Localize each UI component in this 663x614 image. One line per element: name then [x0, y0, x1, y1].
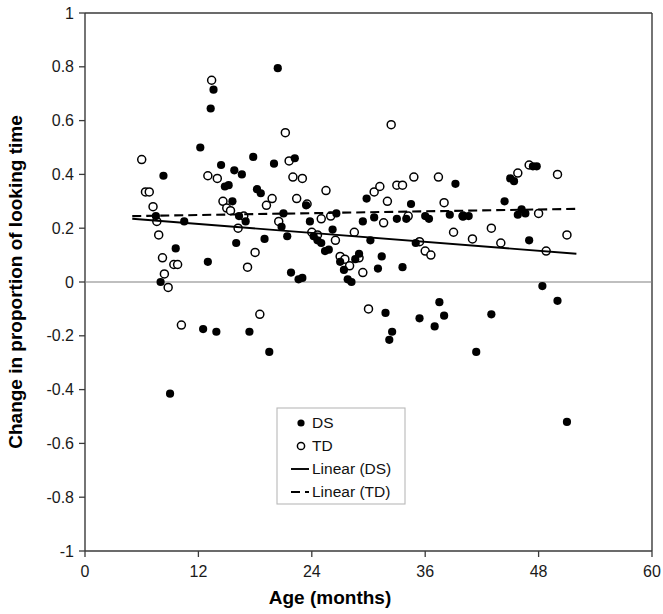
data-point-ds [533, 162, 541, 170]
y-tick-label: -1 [60, 543, 74, 560]
legend-label: DS [312, 414, 334, 431]
data-point-ds [525, 236, 533, 244]
data-point-ds [306, 217, 314, 225]
data-point-td [387, 121, 395, 129]
data-point-ds [232, 239, 240, 247]
data-point-ds [230, 166, 238, 174]
y-axis-ticks: -1-0.8-0.6-0.4-0.200.20.40.60.81 [46, 5, 85, 560]
legend-label: Linear (TD) [312, 483, 390, 500]
data-point-td [410, 173, 418, 181]
data-point-td [554, 170, 562, 178]
data-point-ds [225, 181, 233, 189]
x-axis-ticks: 01224364860 [81, 551, 661, 580]
data-point-td [487, 224, 495, 232]
data-point-td [383, 197, 391, 205]
data-point-ds [378, 252, 386, 260]
data-point-td [359, 269, 367, 277]
data-point-ds [317, 239, 325, 247]
legend-label: TD [312, 437, 333, 454]
data-point-td [399, 181, 407, 189]
data-point-td [350, 228, 358, 236]
x-tick-label: 12 [190, 563, 208, 580]
data-point-td [365, 305, 373, 313]
data-point-td [293, 195, 301, 203]
scatter-plot-figure: -1-0.8-0.6-0.4-0.200.20.40.60.81 0122436… [0, 0, 663, 614]
data-point-ds [291, 154, 299, 162]
data-point-td [251, 248, 259, 256]
data-point-td [177, 321, 185, 329]
data-point-ds [172, 244, 180, 252]
data-point-td [434, 173, 442, 181]
data-point-ds [402, 215, 410, 223]
data-point-td [468, 235, 476, 243]
data-point-td [535, 209, 543, 217]
data-point-ds [207, 104, 215, 112]
data-point-ds [245, 328, 253, 336]
data-point-ds [435, 298, 443, 306]
data-point-td [262, 201, 270, 209]
chart-canvas: -1-0.8-0.6-0.4-0.200.20.40.60.81 0122436… [0, 0, 663, 614]
data-point-ds [199, 325, 207, 333]
data-point-ds [235, 212, 243, 220]
data-point-ds [347, 278, 355, 286]
data-point-td [138, 156, 146, 164]
data-point-ds [359, 217, 367, 225]
data-point-ds [388, 328, 396, 336]
y-tick-label: 0.2 [52, 220, 74, 237]
data-point-ds [166, 390, 174, 398]
data-point-ds [340, 266, 348, 274]
data-point-ds [204, 258, 212, 266]
data-point-ds [257, 189, 265, 197]
data-point-td [244, 263, 252, 271]
data-point-ds [363, 195, 371, 203]
y-tick-label: 0.8 [52, 58, 74, 75]
data-point-ds [302, 201, 310, 209]
x-tick-label: 48 [530, 563, 548, 580]
data-point-ds [249, 153, 257, 161]
data-point-ds [385, 336, 393, 344]
data-point-ds [298, 274, 306, 282]
data-point-td [155, 231, 163, 239]
x-axis-title: Age (months) [269, 587, 391, 608]
data-point-ds [328, 225, 336, 233]
data-point-ds [217, 161, 225, 169]
data-point-td [208, 76, 216, 84]
data-point-ds [238, 170, 246, 178]
data-point-td [331, 236, 339, 244]
data-point-td [317, 215, 325, 223]
data-point-td [174, 261, 182, 269]
y-tick-label: 0.6 [52, 112, 74, 129]
data-point-ds [381, 309, 389, 317]
x-tick-label: 24 [303, 563, 321, 580]
data-point-ds [260, 235, 268, 243]
data-point-td [380, 219, 388, 227]
data-point-ds [425, 215, 433, 223]
data-point-ds [440, 312, 448, 320]
y-tick-label: 0.4 [52, 166, 74, 183]
data-point-td [298, 174, 306, 182]
data-point-ds [510, 177, 518, 185]
data-point-ds [393, 215, 401, 223]
data-point-ds [196, 143, 204, 151]
x-tick-label: 36 [416, 563, 434, 580]
data-point-td [256, 310, 264, 318]
data-point-td [563, 231, 571, 239]
data-point-td [204, 172, 212, 180]
data-point-ds [415, 314, 423, 322]
data-point-ds [538, 282, 546, 290]
data-point-td [268, 195, 276, 203]
data-point-td [440, 199, 448, 207]
legend-marker-ds [297, 419, 304, 426]
data-point-td [450, 228, 458, 236]
data-point-td [149, 203, 157, 211]
data-point-ds [374, 264, 382, 272]
data-point-ds [398, 263, 406, 271]
y-tick-label: 1 [65, 5, 74, 22]
data-point-ds [274, 64, 282, 72]
data-point-ds [370, 213, 378, 221]
data-point-ds [500, 197, 508, 205]
y-tick-label: -0.8 [46, 489, 74, 506]
data-point-ds [487, 310, 495, 318]
y-axis-title: Change in proportion of looking time [5, 115, 26, 449]
x-tick-label: 0 [81, 563, 90, 580]
